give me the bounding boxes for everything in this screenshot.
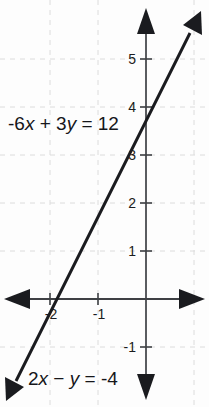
graph-svg: 5 4 3 2 1 -1 -2 -1 -6x + 3y = 12 2x − y … — [0, 0, 209, 407]
coordinate-graph: 5 4 3 2 1 -1 -2 -1 -6x + 3y = 12 2x − y … — [0, 0, 209, 407]
equation-2-part-0: 2 — [28, 368, 39, 389]
y-tick-label-4: 4 — [128, 99, 136, 115]
x-tick-label-neg1: -1 — [93, 306, 106, 322]
equation-2-part-2: − — [48, 368, 70, 389]
equation-1-part-0: -6 — [8, 113, 25, 134]
y-tick-label-5: 5 — [128, 51, 136, 67]
equation-2-part-4: = -4 — [79, 368, 118, 389]
equation-1-part-4: = 12 — [76, 113, 119, 134]
y-tick-label-1: 1 — [128, 243, 136, 259]
y-tick-label-2: 2 — [128, 195, 136, 211]
equation-1-label: -6x + 3y = 12 — [8, 113, 119, 134]
equation-2-label: 2x − y = -4 — [28, 368, 118, 389]
equation-1-part-2: + 3 — [34, 113, 66, 134]
y-tick-label-neg1: -1 — [124, 339, 137, 355]
